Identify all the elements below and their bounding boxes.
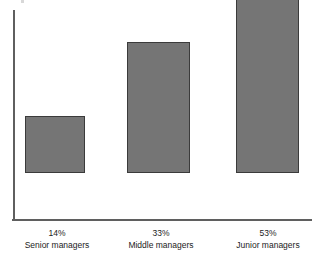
x-axis-labels: 14% Senior managers 33% Middle managers … (0, 228, 316, 268)
bar-middle-managers[interactable] (127, 42, 190, 173)
bar-chart: 14% Senior managers 33% Middle managers … (0, 0, 316, 268)
x-label-value: 33% (113, 228, 209, 240)
x-label-value: 14% (9, 228, 105, 240)
x-label-senior-managers: 14% Senior managers (9, 228, 105, 251)
x-label-name: Junior managers (220, 240, 316, 252)
x-label-middle-managers: 33% Middle managers (113, 228, 209, 251)
x-label-name: Senior managers (9, 240, 105, 252)
x-label-junior-managers: 53% Junior managers (220, 228, 316, 251)
x-label-value: 53% (220, 228, 316, 240)
bar-senior-managers[interactable] (25, 116, 85, 173)
bar-junior-managers[interactable] (236, 0, 299, 173)
x-label-name: Middle managers (113, 240, 209, 252)
bars-layer (0, 0, 316, 221)
